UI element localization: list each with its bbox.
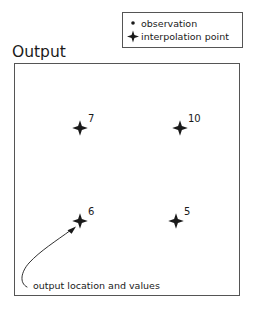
data-point-label: 7 [88, 113, 94, 124]
legend-entry-observation: observation [131, 18, 197, 29]
plot-frame [15, 64, 240, 296]
page-title: Output [12, 43, 66, 61]
data-point-label: 6 [88, 206, 94, 217]
legend-label-interpolation-point: interpolation point [141, 31, 229, 42]
legend: observation interpolation point [123, 13, 243, 48]
legend-entry-interpolation-point: interpolation point [127, 31, 229, 43]
dot-icon [131, 21, 135, 25]
annotation-text: output location and values [33, 280, 160, 291]
legend-label-observation: observation [141, 18, 197, 29]
data-point-label: 5 [184, 206, 190, 217]
output-interpolation-figure: observation interpolation point Output 7… [0, 0, 254, 312]
data-point-label: 10 [188, 113, 201, 124]
